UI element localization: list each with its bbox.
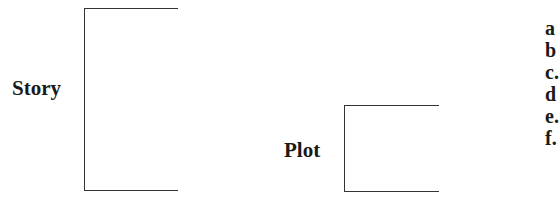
story-bracket bbox=[84, 8, 178, 191]
item-list: a b c. d e. f. bbox=[545, 17, 559, 149]
list-item: a bbox=[545, 17, 559, 39]
plot-label: Plot bbox=[284, 140, 320, 161]
list-item: b bbox=[545, 39, 559, 61]
story-label: Story bbox=[12, 78, 61, 99]
list-item: c. bbox=[545, 61, 559, 83]
list-item: e. bbox=[545, 105, 559, 127]
list-item: f. bbox=[545, 127, 559, 149]
list-item: d bbox=[545, 83, 559, 105]
plot-bracket bbox=[344, 105, 439, 192]
